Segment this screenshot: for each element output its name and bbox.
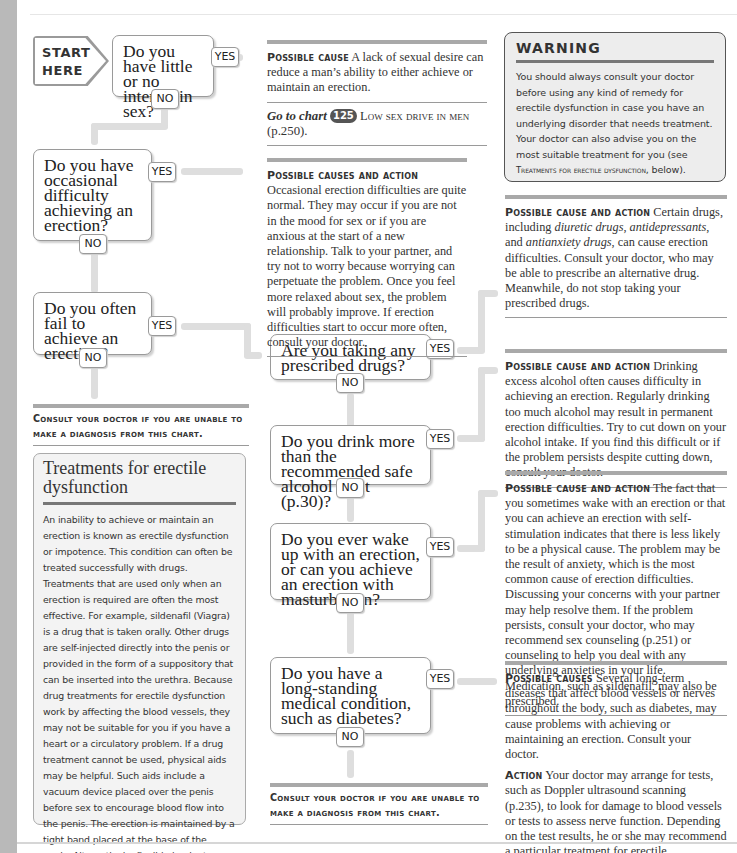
- action-heading: Action: [505, 769, 543, 782]
- question-often-fail: Do you often fail to achieve an erection…: [33, 292, 152, 355]
- goto-chart-label: Go to chart: [267, 109, 327, 123]
- outcome-heading: Possible cause and action: [505, 482, 650, 495]
- outcome-heading: Possible causes: [505, 672, 593, 685]
- outcome-heading: Possible cause and action: [505, 360, 650, 373]
- question-long-standing-condition: Do you have a long-standing medical cond…: [270, 657, 431, 734]
- question-occasional-difficulty: Do you have occasional difficulty achiev…: [33, 149, 152, 241]
- q6-yes-tag[interactable]: YES: [426, 537, 454, 557]
- outcome-occasional-difficulty: Possible causes and action Occasional er…: [267, 158, 467, 357]
- outcome-heading: Possible cause and action: [505, 206, 650, 219]
- outcome-prescribed-drugs: Possible cause and action Certain drugs,…: [505, 195, 727, 318]
- q5-yes-tag[interactable]: YES: [426, 429, 454, 449]
- chart-number-badge[interactable]: 125: [330, 109, 357, 123]
- question-interest-in-sex: Do you have little or no interest in sex…: [112, 35, 214, 97]
- question-wake-with-erection: Do you ever wake up with an erection, or…: [270, 523, 431, 600]
- start-label-line2: HERE: [42, 62, 91, 80]
- treatments-box: Treatments for erectile dysfunction An i…: [33, 453, 246, 825]
- warning-title: WARNING: [516, 40, 714, 56]
- warning-text: You should always consult your doctor be…: [516, 71, 712, 160]
- q6-no-tag[interactable]: NO: [336, 593, 364, 613]
- start-label-line1: START: [42, 44, 91, 62]
- q7-no-tag[interactable]: NO: [336, 727, 364, 747]
- q4-no-tag[interactable]: NO: [336, 373, 364, 393]
- warning-box: WARNING You should always consult your d…: [504, 32, 726, 182]
- q1-yes-tag[interactable]: YES: [211, 47, 239, 67]
- warning-link-treatments[interactable]: Treatments for erectile dysfunction: [516, 165, 646, 175]
- top-divider: [30, 14, 737, 15]
- outcome-long-term-disease: Possible causes Several long-term diseas…: [505, 661, 727, 853]
- bottom-divider: [17, 842, 737, 844]
- q2-no-tag[interactable]: NO: [79, 234, 107, 254]
- consult-notice-center: Consult your doctor if you are unable to…: [270, 783, 488, 825]
- outcome-low-desire: Possible cause A lack of sexual desire c…: [267, 40, 487, 146]
- outcome-heading: Possible causes and action: [267, 169, 418, 182]
- treatments-title: Treatments for erectile dysfunction: [43, 459, 236, 497]
- q3-yes-tag[interactable]: YES: [148, 316, 176, 336]
- q7-yes-tag[interactable]: YES: [426, 669, 454, 689]
- q1-no-tag[interactable]: NO: [151, 89, 179, 109]
- q5-no-tag[interactable]: NO: [336, 478, 364, 498]
- treatments-body: An inability to achieve or maintain an e…: [43, 512, 236, 853]
- q3-no-tag[interactable]: NO: [79, 348, 107, 368]
- page-edge-stripe: [0, 0, 17, 853]
- question-alcohol-limit: Do you drink more than the recommended s…: [270, 425, 431, 485]
- outcome-alcohol: Possible cause and action Drinking exces…: [505, 349, 727, 488]
- goto-chart-title[interactable]: Low sex drive in men: [360, 109, 469, 123]
- q2-yes-tag[interactable]: YES: [148, 162, 176, 182]
- start-here-marker: START HERE: [33, 36, 109, 86]
- consult-notice-left: Consult your doctor if you are unable to…: [33, 404, 249, 446]
- outcome-heading: Possible cause: [267, 51, 349, 64]
